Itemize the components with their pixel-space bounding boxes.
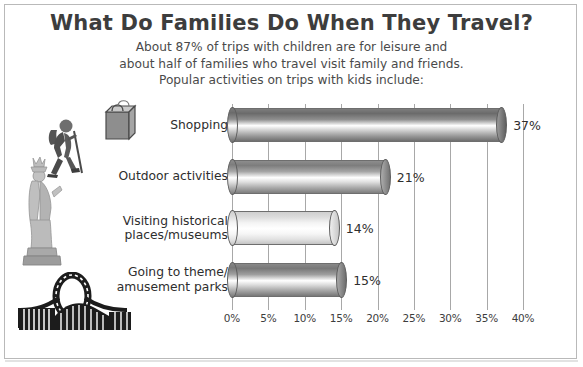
bar-body [232,108,501,142]
category-label: Shopping [53,118,228,133]
category-label-line: Visiting historical [53,214,228,229]
bar-cap-left [227,159,238,195]
x-tick-label: 25% [394,312,434,324]
x-tick-label: 0% [212,312,252,324]
category-label: Going to theme/amusement parks [53,265,228,294]
x-tick-label: 10% [285,312,325,324]
bar: 37% [232,108,501,142]
bar: 15% [232,263,341,297]
category-label-line: Outdoor activities [53,169,228,184]
infographic-chart: What Do Families Do When They Travel? Ab… [0,0,583,367]
gridline-40% [523,104,524,310]
category-label: Outdoor activities [53,169,228,184]
bar-cap-left [227,210,238,246]
bar: 14% [232,211,334,245]
bar-cap-right [496,107,507,143]
bar-cap-right [329,210,340,246]
category-label: Visiting historicalplaces/museums [53,214,228,243]
category-label-line: Shopping [53,118,228,133]
bar-cap-right [336,262,347,298]
x-tick-label: 40% [503,312,543,324]
bar: 21% [232,160,385,194]
bar-value-label: 14% [346,221,374,236]
x-tick-label: 30% [430,312,470,324]
x-tick-label: 15% [321,312,361,324]
bar-value-label: 15% [353,272,381,287]
category-label-line: amusement parks [53,280,228,295]
bar-cap-right [380,159,391,195]
bar-body [232,160,385,194]
bar-value-label: 21% [397,169,425,184]
bar-cap-left [227,107,238,143]
plot-area: 37%21%14%15% [232,104,523,310]
x-axis-tick-labels: 0%5%10%15%20%25%30%35%40% [0,312,583,332]
frame-shadow [5,360,578,362]
x-tick-label: 35% [467,312,507,324]
category-label-line: places/museums [53,228,228,243]
x-tick-label: 5% [248,312,288,324]
bar-value-label: 37% [513,118,541,133]
bar-cap-left [227,262,238,298]
category-label-line: Going to theme/ [53,265,228,280]
bar-body [232,211,334,245]
x-tick-label: 20% [358,312,398,324]
bar-body [232,263,341,297]
